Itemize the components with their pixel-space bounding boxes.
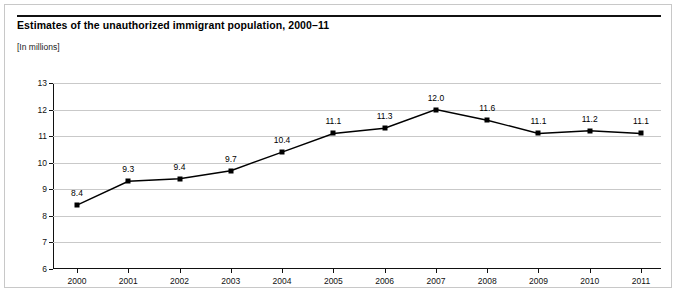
x-tick-mark [128,269,129,273]
data-point-label: 9.4 [174,162,186,172]
data-point-label: 11.6 [479,103,495,113]
data-point-label: 11.1 [633,116,649,126]
x-tick-label: 2007 [426,276,445,286]
data-point [126,179,131,184]
data-point [177,176,182,181]
series-line [53,83,661,269]
x-tick-mark [282,269,283,273]
data-point [280,150,285,155]
data-point-label: 11.2 [582,114,598,124]
chart-subtitle: [In millions] [17,42,60,52]
x-tick-label: 2001 [119,276,138,286]
x-tick-mark [77,269,78,273]
y-tick-label: 10 [38,158,47,168]
data-point-label: 10.4 [274,135,291,145]
data-point [536,131,541,136]
data-point-label: 11.3 [377,111,393,121]
data-point [587,128,592,133]
x-tick-label: 2005 [324,276,343,286]
y-tick-mark [49,269,53,270]
data-point [433,107,438,112]
x-tick-label: 2008 [478,276,497,286]
x-tick-label: 2004 [273,276,292,286]
chart-card: Estimates of the unauthorized immigrant … [4,4,672,288]
data-point-label: 11.1 [325,116,341,126]
plot-area: 678910111213 200020012002200320042005200… [53,83,661,269]
page-title: Estimates of the unauthorized immigrant … [17,19,329,31]
data-point-label: 11.1 [530,116,546,126]
data-point [485,118,490,123]
y-tick-label: 7 [42,237,47,247]
data-point [382,126,387,131]
x-tick-mark [333,269,334,273]
data-point [331,131,336,136]
x-tick-label: 2009 [529,276,548,286]
data-point-label: 8.4 [71,188,83,198]
data-point [228,168,233,173]
x-tick-mark [180,269,181,273]
y-tick-label: 12 [38,105,47,115]
x-tick-label: 2006 [375,276,394,286]
x-tick-mark [641,269,642,273]
data-point [75,203,80,208]
x-tick-label: 2011 [632,276,650,286]
y-tick-label: 6 [42,264,47,274]
x-tick-label: 2002 [170,276,189,286]
data-point-label: 9.7 [225,154,237,164]
x-tick-label: 2000 [68,276,87,286]
y-tick-label: 8 [42,211,47,221]
data-point-label: 9.3 [122,164,134,174]
data-point [639,131,644,136]
data-point-label: 12.0 [428,93,445,103]
x-tick-mark [385,269,386,273]
x-tick-label: 2010 [580,276,599,286]
title-rule [17,15,661,17]
y-tick-label: 13 [38,78,47,88]
x-tick-mark [231,269,232,273]
x-tick-mark [487,269,488,273]
y-tick-label: 11 [38,131,47,141]
x-tick-mark [590,269,591,273]
x-tick-label: 2003 [221,276,240,286]
x-tick-mark [538,269,539,273]
x-tick-mark [436,269,437,273]
y-tick-label: 9 [42,184,47,194]
